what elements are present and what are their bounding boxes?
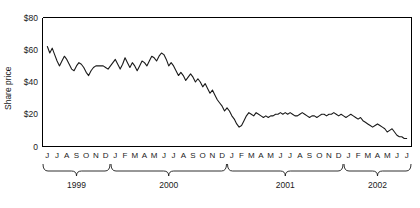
- y-tick-label-0: 0: [33, 142, 38, 152]
- month-label-22: A: [258, 151, 264, 160]
- year-bracket-2002: [344, 164, 411, 176]
- year-label-2001: 2001: [276, 180, 295, 190]
- month-label-2: A: [64, 151, 70, 160]
- year-label-2002: 2002: [368, 180, 387, 190]
- month-label-9: M: [131, 151, 138, 160]
- month-label-32: F: [356, 151, 361, 160]
- share-price-chart: Share price 0$20$40$60$80 JJASONDJFMAMJJ…: [0, 0, 420, 208]
- month-label-19: J: [230, 151, 234, 160]
- year-label-2000: 2000: [159, 180, 178, 190]
- month-label-21: M: [248, 151, 255, 160]
- month-label-5: N: [93, 151, 99, 160]
- month-label-31: J: [346, 151, 350, 160]
- year-bracket-2001: [228, 164, 344, 176]
- year-bracket-1999: [43, 164, 110, 176]
- month-label-14: A: [181, 151, 187, 160]
- month-label-10: A: [142, 151, 148, 160]
- month-label-6: D: [103, 151, 109, 160]
- month-label-30: D: [336, 151, 342, 160]
- month-label-13: J: [172, 151, 176, 160]
- month-label-37: J: [405, 151, 409, 160]
- y-tick-label-1: $20: [24, 109, 38, 119]
- month-label-25: J: [288, 151, 292, 160]
- plot-frame: [43, 18, 412, 147]
- month-label-0: J: [45, 151, 49, 160]
- y-axis-tick-labels: 0$20$40$60$80: [24, 13, 38, 152]
- month-label-34: A: [375, 151, 381, 160]
- x-axis-month-labels: JJASONDJFMAMJJASONDJFMAMJJASONDJFMAMJJ: [45, 151, 408, 160]
- month-label-35: M: [384, 151, 391, 160]
- month-label-36: J: [395, 151, 399, 160]
- y-axis-title: Share price: [3, 66, 13, 110]
- month-label-26: A: [297, 151, 303, 160]
- month-label-27: S: [307, 151, 312, 160]
- month-label-3: S: [74, 151, 79, 160]
- year-label-1999: 1999: [67, 180, 86, 190]
- month-label-15: S: [190, 151, 195, 160]
- month-label-11: M: [151, 151, 158, 160]
- x-axis-year-brackets: [43, 164, 411, 176]
- year-bracket-2000: [111, 164, 227, 176]
- month-label-7: J: [113, 151, 117, 160]
- y-tick-label-3: $60: [24, 45, 38, 55]
- month-label-16: O: [200, 151, 206, 160]
- month-label-24: J: [278, 151, 282, 160]
- month-label-20: F: [239, 151, 244, 160]
- y-tick-label-4: $80: [24, 13, 38, 23]
- plot-frame-rect: [43, 18, 412, 147]
- month-label-28: O: [316, 151, 322, 160]
- month-label-33: M: [364, 151, 371, 160]
- month-label-8: F: [123, 151, 128, 160]
- y-tick-label-2: $40: [24, 77, 38, 87]
- month-label-18: D: [219, 151, 225, 160]
- month-label-4: O: [83, 151, 89, 160]
- data-series-group: [47, 47, 406, 139]
- share-price-line: [47, 47, 406, 139]
- month-label-12: J: [162, 151, 166, 160]
- month-label-1: J: [55, 151, 59, 160]
- month-label-23: M: [267, 151, 274, 160]
- y-axis-title-group: Share price: [3, 66, 13, 110]
- chart-canvas: Share price 0$20$40$60$80 JJASONDJFMAMJJ…: [0, 0, 420, 208]
- x-axis-year-labels: 1999200020012002: [67, 180, 387, 190]
- month-label-29: N: [326, 151, 332, 160]
- month-label-17: N: [210, 151, 216, 160]
